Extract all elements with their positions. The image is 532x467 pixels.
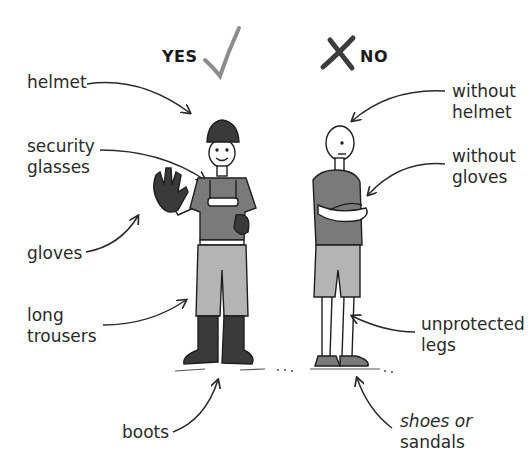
- arrow-gloves: [86, 216, 138, 252]
- arrow-boots: [173, 380, 218, 432]
- cross-icon: [323, 38, 353, 68]
- arrow-unprotected-legs: [352, 316, 415, 332]
- arrow-glasses: [100, 150, 205, 180]
- arrows-right: [352, 91, 445, 428]
- illustration-art: [0, 0, 532, 467]
- protected-worker: [154, 120, 256, 364]
- ground: [175, 369, 393, 373]
- checkmark-icon: [205, 28, 239, 76]
- unprotected-worker: [313, 126, 368, 366]
- arrow-helmet: [87, 83, 190, 113]
- ppe-illustration: YES NO helmet security glasses gloves lo…: [0, 0, 532, 467]
- arrow-shoes: [357, 378, 392, 428]
- arrow-without-gloves: [368, 164, 445, 195]
- arrow-trousers: [103, 300, 186, 325]
- arrow-without-helmet: [352, 91, 445, 121]
